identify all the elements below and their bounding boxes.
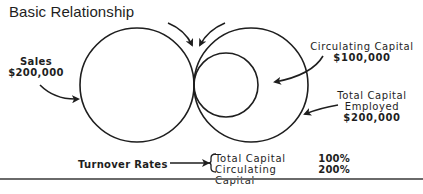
- sales-label: Sales $200,000: [6, 56, 66, 78]
- sales-arrow-icon: [40, 85, 78, 99]
- rate-value: 200%: [318, 164, 350, 186]
- rate-name: Total Capital: [215, 153, 286, 164]
- rate-row-total-capital: Total Capital 100%: [215, 153, 350, 164]
- bottom-divider: [0, 178, 423, 180]
- turnover-rates-label: Turnover Rates: [78, 159, 168, 170]
- total-capital-circle: [194, 28, 308, 142]
- top-right-arrow-icon: [200, 23, 225, 45]
- total-capital-employed-label: Total Capital Employed $200,000: [322, 90, 422, 123]
- rate-row-circulating-capital: Circulating Capital 200%: [215, 164, 350, 186]
- turnover-rates-table: Total Capital 100% Circulating Capital 2…: [215, 153, 350, 186]
- rate-value: 100%: [318, 153, 350, 164]
- circulating-capital-circle: [194, 53, 258, 117]
- rate-name: Circulating Capital: [215, 164, 318, 186]
- top-left-arrow-icon: [168, 23, 192, 45]
- circulating-capital-label: Circulating Capital $100,000: [306, 41, 418, 63]
- sales-circle: [80, 28, 194, 142]
